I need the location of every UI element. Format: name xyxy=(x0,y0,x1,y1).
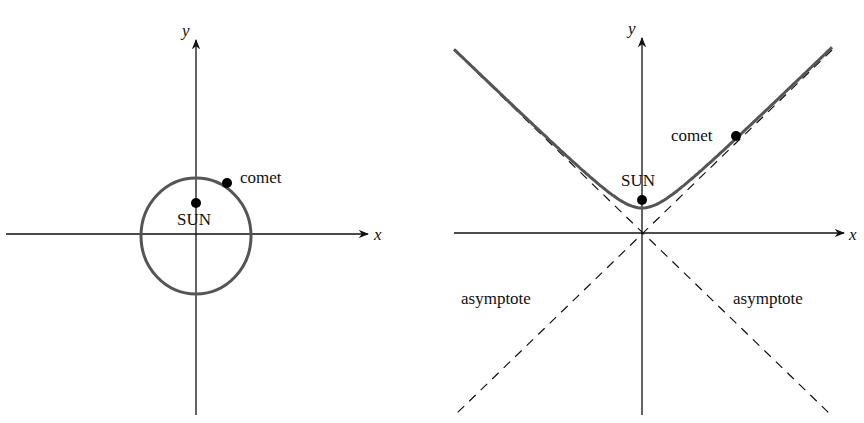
sun-point xyxy=(637,195,647,205)
hyperbola-panel: x y SUN comet asymptote asymptote xyxy=(454,19,857,416)
comet-point xyxy=(731,131,741,141)
comet-label: comet xyxy=(240,168,282,187)
sun-point xyxy=(191,198,201,208)
y-axis-label: y xyxy=(180,21,190,40)
orbit-diagrams: x y SUN comet x y SUN comet asymptote as… xyxy=(0,0,864,423)
comet-point xyxy=(222,178,232,188)
comet-label: comet xyxy=(671,126,713,145)
x-axis-label: x xyxy=(373,225,382,244)
y-axis-label: y xyxy=(626,19,636,38)
sun-label: SUN xyxy=(177,210,211,229)
ellipse-panel: x y SUN comet xyxy=(6,21,382,415)
sun-label: SUN xyxy=(621,171,655,190)
asymptote-label-left: asymptote xyxy=(461,289,531,308)
x-axis-label: x xyxy=(848,225,857,244)
asymptote-label-right: asymptote xyxy=(733,289,803,308)
